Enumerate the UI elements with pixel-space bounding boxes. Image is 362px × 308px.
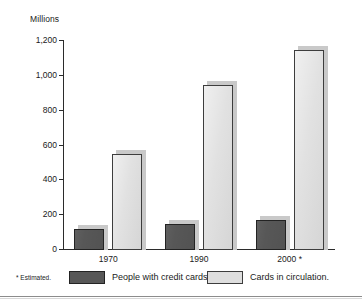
bar-group: [165, 41, 233, 250]
y-tick-label: 0: [52, 244, 57, 254]
y-tick-mark: [59, 249, 63, 250]
x-axis-label: 1990: [154, 254, 245, 264]
y-tick-mark: [59, 40, 63, 41]
legend-swatch-light: [207, 271, 243, 284]
y-axis-line: [63, 40, 64, 250]
bottom-divider-shadow: [0, 298, 362, 299]
bar: [165, 224, 195, 250]
y-tick-mark: [59, 110, 63, 111]
y-tick-label: 800: [43, 105, 57, 115]
y-tick-label: 1,200: [36, 35, 57, 45]
plot-area: 02004006008001,0001,200 197019902000 *: [63, 40, 335, 250]
chart-figure: Millions 02004006008001,0001,200 1970199…: [0, 0, 362, 308]
bar: [112, 154, 142, 250]
legend-label: People with credit cards.: [112, 272, 210, 282]
bottom-divider: [0, 296, 362, 297]
chart-legend: * Estimated. People with credit cards. C…: [0, 266, 362, 292]
x-axis-label: 1970: [63, 254, 154, 264]
y-axis-title: Millions: [30, 14, 59, 24]
y-tick-label: 600: [43, 140, 57, 150]
y-tick-label: 400: [43, 174, 57, 184]
legend-label: Cards in circulation.: [250, 272, 329, 282]
y-tick-mark: [59, 179, 63, 180]
bar-group: [74, 41, 142, 250]
y-tick-mark: [59, 214, 63, 215]
footnote-estimated: * Estimated.: [16, 274, 51, 281]
y-tick-mark: [59, 75, 63, 76]
legend-item-people-with-credit-cards: People with credit cards.: [69, 266, 210, 288]
bar: [74, 229, 104, 250]
bar: [203, 85, 233, 250]
y-tick-label: 1,000: [36, 70, 57, 80]
bar: [294, 50, 324, 250]
legend-swatch-dark: [69, 271, 105, 284]
y-tick-mark: [59, 145, 63, 146]
legend-item-cards-in-circulation: Cards in circulation.: [207, 266, 329, 288]
y-tick-label: 200: [43, 209, 57, 219]
x-axis-label: 2000 *: [244, 254, 335, 264]
bar-group: [256, 41, 324, 250]
bar: [256, 220, 286, 250]
